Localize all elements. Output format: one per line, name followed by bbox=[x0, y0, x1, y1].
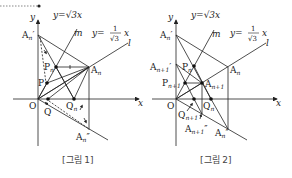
label-An-dprime: An″ bbox=[75, 132, 90, 143]
figure-2-caption: [그림 2] bbox=[200, 154, 232, 165]
svg-text:x: x bbox=[124, 28, 129, 38]
svg-text:1: 1 bbox=[251, 25, 255, 33]
svg-text:x: x bbox=[262, 28, 267, 38]
svg-text:√3: √3 bbox=[248, 35, 257, 43]
origin-label: O bbox=[167, 101, 174, 111]
label-An-prime: An′ bbox=[21, 30, 34, 41]
label-An1-dprime: An+1″ bbox=[184, 124, 208, 135]
svg-text:1: 1 bbox=[113, 25, 117, 33]
line-m-name: m bbox=[212, 29, 221, 39]
point-Pn bbox=[54, 65, 58, 69]
point-Pn bbox=[192, 64, 196, 68]
label-Pn: Pn bbox=[182, 62, 192, 73]
line-l-name: l bbox=[266, 38, 269, 48]
y-axis-label: y bbox=[167, 12, 174, 22]
line-m-equation: y=√3x bbox=[190, 10, 220, 20]
diagram-canvas: y x O y=√3x m y= 1 √3 x l An′ An Pn P Q … bbox=[0, 0, 292, 178]
label-An1: An+1 bbox=[204, 79, 224, 90]
origin-label: O bbox=[29, 101, 36, 111]
label-An-dprime: An″ bbox=[214, 128, 229, 139]
figure-1-caption: [그림 1] bbox=[62, 154, 94, 165]
line-l-equation: y= 1 √3 x bbox=[229, 25, 267, 43]
label-An: An bbox=[90, 65, 102, 76]
label-Q: Q bbox=[44, 107, 51, 117]
point-Pn1 bbox=[183, 81, 187, 85]
svg-text:√3: √3 bbox=[110, 35, 119, 43]
label-Qn: Qn bbox=[66, 101, 77, 112]
label-P: P bbox=[38, 78, 44, 88]
svg-text:y=: y= bbox=[229, 28, 243, 38]
line-l-equation: y= 1 √3 x bbox=[91, 25, 129, 43]
x-axis-label: x bbox=[276, 98, 281, 108]
point-P bbox=[45, 81, 49, 85]
label-Qn1: Qn+1 bbox=[178, 110, 198, 121]
label-An-prime: An′ bbox=[159, 30, 172, 41]
line-m-equation: y=√3x bbox=[52, 10, 82, 20]
line-l-name: l bbox=[128, 38, 131, 48]
y-axis-label: y bbox=[29, 12, 36, 22]
point-Qn1 bbox=[192, 97, 196, 101]
svg-text:y=: y= bbox=[91, 28, 105, 38]
label-Pn1: Pn+1 bbox=[162, 78, 181, 89]
top-dashed-box-fragment bbox=[0, 4, 41, 7]
x-axis-label: x bbox=[138, 98, 143, 108]
line-m-name: m bbox=[74, 28, 83, 38]
label-An: An bbox=[229, 65, 241, 76]
label-An1-prime: An+1′ bbox=[149, 62, 171, 73]
point-An1 bbox=[200, 81, 204, 85]
label-Pn: Pn bbox=[44, 62, 54, 73]
point-Q bbox=[46, 97, 50, 101]
